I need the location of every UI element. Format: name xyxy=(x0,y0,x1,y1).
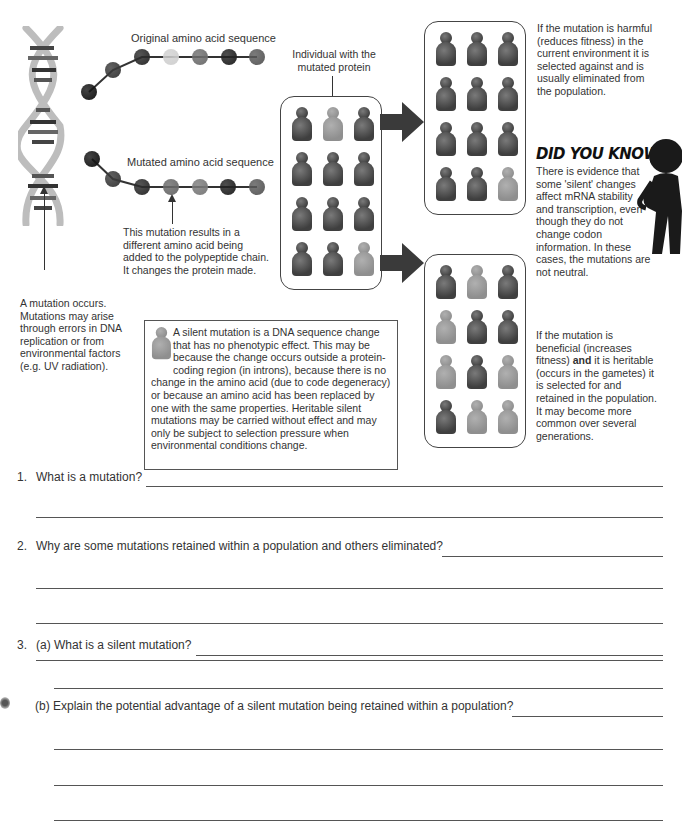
mutated-individual-icon xyxy=(322,107,344,141)
beneficial-outcome-note: If the mutation is beneficial (increases… xyxy=(536,329,660,442)
mutated-amino-acid-bead xyxy=(163,179,179,195)
silhouette-person-icon xyxy=(636,136,682,256)
did-you-know-text: There is evidence that some 'silent' cha… xyxy=(536,165,652,278)
dna-helix-image xyxy=(18,26,68,226)
answer-line[interactable] xyxy=(36,660,663,661)
answer-line[interactable] xyxy=(36,623,663,624)
amino-acid-bead xyxy=(84,151,100,167)
beneficial-note-text-2: it is heritable (occurs in the gametes) … xyxy=(536,354,657,442)
individual-icon xyxy=(435,32,457,66)
answer-line[interactable] xyxy=(442,556,663,557)
answer-line[interactable] xyxy=(54,688,663,689)
mutation-effect-note: This mutation results in a different ami… xyxy=(123,226,273,276)
individual-icon xyxy=(497,310,519,344)
amino-acid-bead xyxy=(134,49,150,65)
individual-icon xyxy=(353,152,375,186)
individual-icon xyxy=(322,197,344,231)
amino-acid-bead xyxy=(81,84,97,100)
individual-icon xyxy=(353,197,375,231)
individual-icon xyxy=(466,122,488,156)
individual-icon xyxy=(322,242,344,276)
individual-icon xyxy=(497,122,519,156)
individual-icon xyxy=(353,107,375,141)
arrowhead-icon xyxy=(40,186,48,194)
mutated-individual-icon xyxy=(353,242,375,276)
mutation-origin-arrow xyxy=(44,190,45,270)
individual-icon xyxy=(466,77,488,111)
harmful-outcome-arrow xyxy=(380,102,425,142)
answer-line[interactable] xyxy=(146,486,663,487)
individual-icon xyxy=(435,122,457,156)
question-1-text: What is a mutation? xyxy=(36,470,142,484)
mutated-individual-icon xyxy=(497,167,519,201)
individual-icon xyxy=(497,77,519,111)
mutation-origin-note: A mutation occurs. Mutations may arise t… xyxy=(20,297,132,373)
question-3a-text: (a) What is a silent mutation? xyxy=(36,638,191,652)
answer-line[interactable] xyxy=(54,785,663,786)
individual-icon xyxy=(435,265,457,299)
amino-acid-bead xyxy=(105,62,121,78)
silent-mutation-definition: A silent mutation is a DNA sequence chan… xyxy=(151,326,390,451)
mutated-individual-icon xyxy=(497,355,519,389)
question-1-number: 1. xyxy=(17,470,27,484)
amino-acid-bead xyxy=(163,49,179,65)
mutated-individual-icon xyxy=(466,400,488,434)
original-amino-acid-chain xyxy=(76,50,276,95)
question-2-text: Why are some mutations retained within a… xyxy=(36,539,443,553)
arrowhead-icon xyxy=(168,194,176,202)
question-3-number: 3. xyxy=(17,638,27,652)
individual-icon xyxy=(435,167,457,201)
mutated-individual-icon xyxy=(497,400,519,434)
individual-icon xyxy=(322,152,344,186)
individual-label: Individual with the mutated protein xyxy=(290,48,378,73)
answer-line[interactable] xyxy=(196,655,663,656)
amino-acid-bead xyxy=(220,179,236,195)
individual-icon xyxy=(435,400,457,434)
individual-icon xyxy=(291,242,313,276)
original-sequence-label: Original amino acid sequence xyxy=(131,32,276,44)
mutated-amino-acid-chain xyxy=(82,152,282,197)
amino-acid-bead xyxy=(192,49,208,65)
amino-acid-bead xyxy=(249,49,265,65)
silent-mutation-info-box: A silent mutation is a DNA sequence chan… xyxy=(144,320,398,470)
mutated-individual-icon xyxy=(435,310,457,344)
amino-acid-bead xyxy=(249,179,265,195)
individual-icon xyxy=(466,355,488,389)
answer-line[interactable] xyxy=(512,716,663,717)
harmful-population-box xyxy=(424,21,526,215)
mutated-individual-icon xyxy=(435,355,457,389)
individual-icon xyxy=(466,310,488,344)
initial-population-box xyxy=(280,96,382,290)
amino-acid-bead xyxy=(105,171,121,187)
individual-icon xyxy=(466,32,488,66)
answer-line[interactable] xyxy=(36,517,663,518)
individual-icon xyxy=(497,265,519,299)
beneficial-outcome-arrow xyxy=(380,243,425,283)
answer-line[interactable] xyxy=(36,588,663,589)
individual-icon xyxy=(291,197,313,231)
amino-acid-bead xyxy=(192,179,208,195)
binder-hole-icon xyxy=(0,697,10,709)
individual-icon xyxy=(435,77,457,111)
harmful-outcome-note: If the mutation is harmful (reduces fitn… xyxy=(537,22,657,98)
silent-mutation-text: A silent mutation is a DNA sequence chan… xyxy=(151,326,391,452)
individual-icon xyxy=(466,167,488,201)
amino-acid-bead xyxy=(134,179,150,195)
individual-icon xyxy=(497,32,519,66)
individual-icon xyxy=(291,107,313,141)
answer-line[interactable] xyxy=(54,749,663,750)
question-3b-text: (b) Explain the potential advantage of a… xyxy=(35,699,513,713)
mutated-individual-icon xyxy=(466,265,488,299)
amino-acid-bead xyxy=(221,49,237,65)
beneficial-population-box xyxy=(424,254,526,448)
individual-icon xyxy=(291,152,313,186)
question-2-number: 2. xyxy=(17,539,27,553)
beneficial-note-emphasis: and xyxy=(573,354,592,366)
